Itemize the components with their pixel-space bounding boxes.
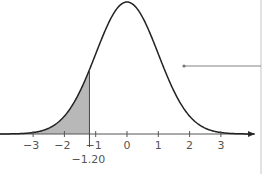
x-tick-label: −3 <box>23 139 39 152</box>
x-tick-label: 3 <box>217 139 224 152</box>
x-tick-label: 2 <box>186 139 193 152</box>
normal-curve <box>0 2 255 134</box>
normal-curve-diagram: −3−2−10123−1.20 <box>0 0 265 174</box>
plot-area: −3−2−10123−1.20 <box>0 2 261 166</box>
shaded-tail-area <box>2 70 90 134</box>
x-tick-label: −2 <box>54 139 70 152</box>
x-tick-label: 0 <box>124 139 131 152</box>
x-tick-label: −1 <box>86 139 102 152</box>
boundary-label: −1.20 <box>72 153 106 166</box>
x-tick-label: 1 <box>155 139 162 152</box>
